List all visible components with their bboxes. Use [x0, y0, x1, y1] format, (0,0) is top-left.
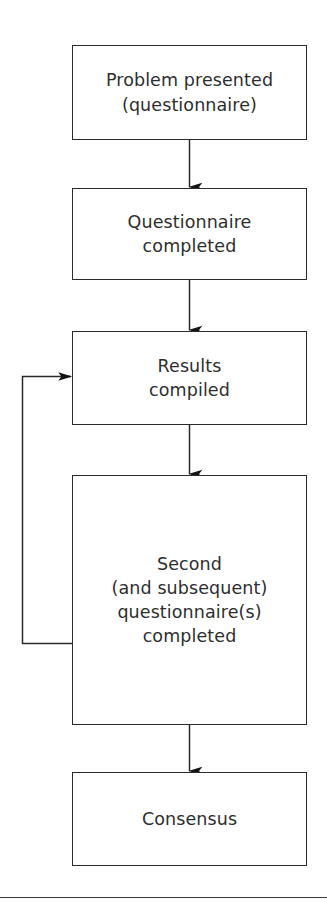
node-results-compiled: Results compiled	[72, 331, 307, 425]
node-questionnaire-completed: Questionnaire completed	[72, 188, 307, 280]
node-problem-presented-label: Problem presented (questionnaire)	[100, 68, 279, 116]
edge-feedback-second-to-results	[23, 377, 73, 644]
node-problem-presented: Problem presented (questionnaire)	[72, 45, 307, 140]
node-second-questionnaire: Second (and subsequent) questionnaire(s)…	[72, 475, 307, 725]
node-consensus: Consensus	[72, 772, 307, 866]
node-results-compiled-label: Results compiled	[143, 354, 236, 402]
node-second-questionnaire-label: Second (and subsequent) questionnaire(s)…	[106, 552, 274, 649]
flowchart-canvas: Problem presented (questionnaire) Questi…	[0, 0, 327, 923]
node-questionnaire-completed-label: Questionnaire completed	[122, 210, 258, 258]
node-consensus-label: Consensus	[136, 807, 243, 831]
bottom-separator-rule	[0, 897, 327, 898]
